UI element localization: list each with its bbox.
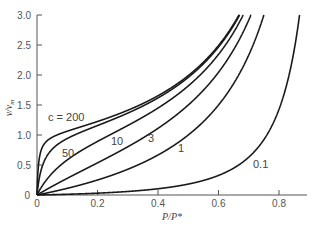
bet-isotherm-chart: 00.51.01.52.02.53.0 00.20.40.60.8 c = 20…: [0, 0, 326, 227]
x-axis-title: P/P*: [161, 211, 182, 222]
curve-label: 10: [111, 135, 123, 147]
x-tick-label: 0.8: [272, 198, 286, 209]
y-tick-label: 2.0: [17, 70, 31, 81]
x-axis-ticks: 00.20.40.60.8: [34, 190, 286, 209]
curve-label: c = 200: [48, 111, 84, 123]
y-tick-label: 3.0: [17, 10, 31, 21]
x-tick-label: 0.6: [212, 198, 226, 209]
y-tick-label: 1.5: [17, 100, 31, 111]
y-tick-label: 0: [24, 190, 30, 201]
curve-label: 3: [148, 132, 154, 144]
curve-c-200: [37, 15, 239, 195]
x-tick-label: 0.4: [151, 198, 165, 209]
curve-c-1: [37, 15, 264, 195]
x-tick-label: 0: [34, 198, 40, 209]
curve-label: 0.1: [253, 158, 268, 170]
y-tick-label: 2.5: [17, 40, 31, 51]
y-tick-label: 1.0: [17, 130, 31, 141]
curve-label: 50: [62, 147, 74, 159]
x-tick-label: 0.2: [91, 198, 105, 209]
curve-label: 1: [178, 142, 184, 154]
curve-labels: c = 2005010310.1: [48, 111, 268, 170]
y-axis-title: v/vm: [3, 100, 16, 117]
y-tick-label: 0.5: [17, 160, 31, 171]
